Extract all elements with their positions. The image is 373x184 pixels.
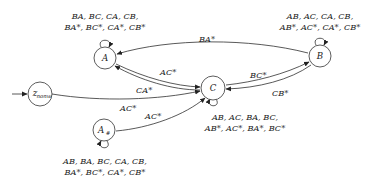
- self-loop-label-A-hash: AB, BA, BC, CA, CB, BA*, BC*, CA*, CB*: [62, 156, 147, 177]
- svg-text:nonw: nonw: [36, 93, 51, 99]
- node-A: A: [94, 47, 116, 69]
- svg-text:C: C: [210, 83, 217, 93]
- svg-text:A: A: [101, 53, 108, 63]
- edge-label-CA: CA*: [136, 85, 152, 95]
- svg-text:AB, BA, BC, CA, CB,: AB, BA, BC, CA, CB,: [62, 156, 147, 166]
- svg-text:AB*, AC*, BA*, BC*: AB*, AC*, BA*, BC*: [204, 123, 285, 133]
- svg-text:A: A: [97, 125, 104, 135]
- edge-label-CB: CB*: [272, 88, 288, 98]
- svg-text:AB*, AC*, CA*, CB*: AB*, AC*, CA*, CB*: [279, 22, 361, 32]
- edge-label-AC-from-znonw: AC*: [119, 103, 136, 113]
- edge-label-BA: BA*: [198, 34, 215, 44]
- edge-znonw-to-C: [52, 91, 200, 99]
- self-loop-Ahash: [100, 141, 108, 148]
- state-diagram: BA* AC* CA* BC* CB* AC* AC* A B C z nonw…: [0, 0, 373, 184]
- node-A-hash: A #: [93, 119, 115, 141]
- node-z-nonw: z nonw: [28, 82, 52, 106]
- self-loop-B: [315, 38, 325, 45]
- node-B: B: [309, 45, 331, 67]
- edge-label-AC-from-A: AC*: [159, 67, 176, 77]
- self-loop-label-C: AB, AC, BA, BC, AB*, AC*, BA*, BC*: [204, 112, 285, 133]
- edge-label-BC: BC*: [249, 70, 267, 80]
- edge-label-AC-from-Ahash: AC*: [144, 111, 161, 121]
- svg-text:B: B: [316, 51, 323, 61]
- self-loop-A: [100, 40, 110, 47]
- svg-text:BA*, BC*, CA*, CB*: BA*, BC*, CA*, CB*: [64, 22, 146, 32]
- node-C: C: [201, 76, 225, 100]
- svg-text:AB, AC, BA, BC,: AB, AC, BA, BC,: [211, 112, 278, 122]
- svg-text:BA*, BC*, CA*, CB*: BA*, BC*, CA*, CB*: [64, 167, 146, 177]
- self-loop-label-B: AB, AC, CA, CB, AB*, AC*, CA*, CB*: [279, 11, 361, 32]
- svg-text:#: #: [106, 130, 111, 136]
- svg-text:BA, BC, CA, CB,: BA, BC, CA, CB,: [71, 11, 139, 21]
- self-loop-label-A: BA, BC, CA, CB, BA*, BC*, CA*, CB*: [64, 11, 146, 32]
- svg-text:AB, AC, CA, CB,: AB, AC, CA, CB,: [286, 11, 354, 21]
